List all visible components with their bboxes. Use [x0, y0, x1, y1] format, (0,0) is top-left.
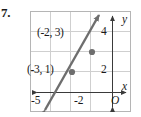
point-label-upper: (-2, 3)	[37, 26, 64, 38]
y-tick-label-2: 2	[101, 63, 107, 75]
figure-container: 7.	[0, 0, 141, 117]
x-axis-label: x	[122, 80, 127, 92]
point-label-lower: (-3, 1)	[27, 63, 54, 75]
y-tick-label-4: 4	[101, 25, 107, 37]
origin-label: O	[111, 94, 119, 106]
y-axis-label: y	[122, 13, 127, 25]
plotted-point	[89, 49, 95, 55]
x-tick-label-minus2: -2	[74, 94, 84, 106]
plotted-point	[69, 69, 75, 75]
x-tick-label-minus5: -5	[31, 94, 41, 106]
problem-number: 7.	[1, 5, 10, 21]
